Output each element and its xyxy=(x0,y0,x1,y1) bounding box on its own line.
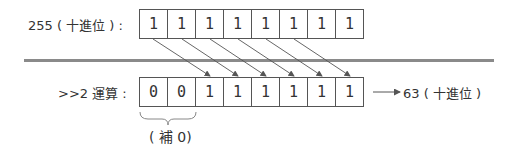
shift-arrows xyxy=(0,0,512,149)
padding-brace-icon xyxy=(140,112,196,125)
shift-arrow-group xyxy=(153,39,350,76)
